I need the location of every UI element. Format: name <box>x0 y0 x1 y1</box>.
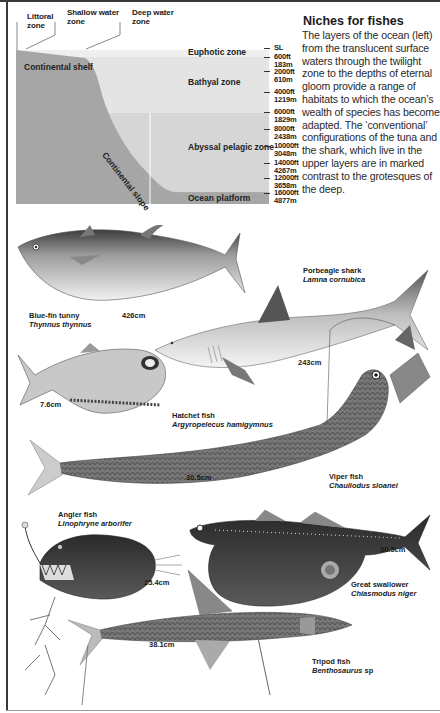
label-line: Deep water <box>132 8 174 17</box>
depth-tick <box>264 129 270 130</box>
depth-tick <box>264 178 270 179</box>
littoral-zone-label: Littoral zone <box>27 12 53 30</box>
common-name: Hatchet fish <box>172 411 215 420</box>
common-name: Viper fish <box>329 472 363 481</box>
viper-fish-caption: Viper fish Chauliodus sloanei <box>329 472 398 490</box>
label-line: zone <box>67 17 85 26</box>
common-name: Great swallower <box>351 580 409 589</box>
depth-marker: 12000ft3658m <box>274 174 298 189</box>
scientific-name: Chiasmodus niger <box>351 589 416 598</box>
label-line: zone <box>27 21 45 30</box>
depth-marker: 14000ft4267m <box>274 159 298 174</box>
scientific-name: Thynnus thynnus <box>29 320 92 329</box>
tuna-caption: Blue-fin tunny Thynnus thynnus <box>29 311 92 329</box>
shallow-water-zone-label: Shallow water zone <box>67 8 119 26</box>
depth-tick <box>264 193 270 194</box>
depth-ft: SL <box>274 43 283 52</box>
depth-marker: 8000ft2438m <box>274 125 296 140</box>
depth-tick <box>264 112 270 113</box>
angler-fish-illustration <box>22 522 182 695</box>
depth-tick <box>264 146 270 147</box>
porbeagle-shark-illustration <box>155 270 428 385</box>
depth-tick <box>264 57 270 58</box>
depth-marker: 600ft183m <box>274 53 292 68</box>
depth-m: 4877m <box>274 196 296 205</box>
depth-tick <box>264 92 270 93</box>
scientific-name: Linophryne arborifer <box>58 519 132 528</box>
great-swallower-size: 30.5cm <box>380 545 405 554</box>
label-line: Littoral <box>27 12 53 21</box>
fish-illustrations <box>0 225 440 710</box>
scientific-name: Argyropelecus hamigymnus <box>172 420 273 429</box>
ocean-zones-diagram: Littoral zone Shallow water zone Deep wa… <box>0 0 310 210</box>
continental-shelf-label: Continental shelf <box>24 62 93 72</box>
depth-tick <box>264 163 270 164</box>
depth-marker: 6000ft1829m <box>274 108 296 123</box>
angler-fish-size: 25.4cm <box>144 578 169 587</box>
tripod-fish-size: 38.1cm <box>149 640 174 649</box>
article-body: The layers of the ocean (left) from the … <box>302 29 440 195</box>
scientific-name: Lamna cornubica <box>303 275 365 284</box>
page-bottom-border <box>6 710 440 711</box>
depth-marker-sl: SL <box>274 44 283 52</box>
bluefin-tuna-illustration <box>18 225 245 300</box>
label-line: Shallow water <box>67 8 119 17</box>
tuna-size: 426cm <box>122 311 145 320</box>
depth-tick <box>264 48 270 49</box>
hatchet-fish-size: 7.6cm <box>40 400 61 409</box>
depth-marker: 16000ft4877m <box>274 189 298 204</box>
ocean-platform-label: Ocean platform <box>188 193 250 203</box>
euphotic-zone-label: Euphotic zone <box>188 47 246 57</box>
depth-marker: 10000ft3048m <box>274 142 298 157</box>
depth-m: 3048m <box>274 149 296 158</box>
shark-caption: Porbeagle shark Lamna cornubica <box>303 266 365 284</box>
depth-marker: 4000ft1219m <box>274 88 296 103</box>
depth-marker: 2000ft610m <box>274 68 294 83</box>
scientific-name: Chauliodus sloanei <box>329 481 398 490</box>
depth-m: 2438m <box>274 132 296 141</box>
abyssal-pelagic-zone-label: Abyssal pelagic zone <box>188 142 274 152</box>
depth-m: 1219m <box>274 95 296 104</box>
depth-tick <box>264 71 270 72</box>
tripod-fish-caption: Tripod fish Benthosaurus sp <box>312 657 373 675</box>
common-name: Tripod fish <box>312 657 350 666</box>
species-abbrev: sp <box>365 666 374 675</box>
viper-fish-size: 30.5cm <box>186 473 211 482</box>
deep-water-zone-label: Deep water zone <box>132 8 174 26</box>
shark-size: 243cm <box>298 358 321 367</box>
great-swallower-caption: Great swallower Chiasmodus niger <box>351 580 416 598</box>
angler-fish-caption: Angler fish Linophryne arborifer <box>58 510 132 528</box>
bathyal-zone-label: Bathyal zone <box>188 77 240 87</box>
hatchet-fish-caption: Hatchet fish Argyropelecus hamigymnus <box>172 411 273 429</box>
depth-m: 1829m <box>274 115 296 124</box>
common-name: Angler fish <box>58 510 97 519</box>
label-line: zone <box>132 17 150 26</box>
depth-m: 610m <box>274 75 292 84</box>
genus-name: Benthosaurus <box>312 666 362 675</box>
common-name: Porbeagle shark <box>303 266 361 275</box>
article-title: Niches for fishes <box>303 14 404 28</box>
scientific-name: Benthosaurus sp <box>312 666 373 675</box>
common-name: Blue-fin tunny <box>29 311 79 320</box>
